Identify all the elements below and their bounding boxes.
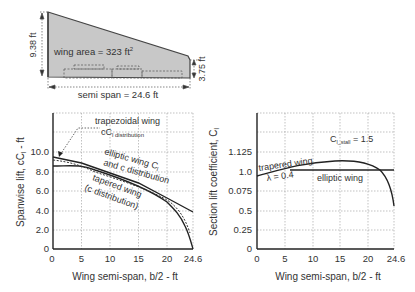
svg-text:1.0: 1.0 xyxy=(239,166,252,177)
y-axis-label: Section lift coefficient, Cl xyxy=(208,127,220,236)
svg-text:2.0: 2.0 xyxy=(36,224,49,235)
annotation-trapezoidal-2: cCl distribution xyxy=(101,127,144,138)
semi-span-label: semi span = 24.6 ft xyxy=(78,89,159,100)
annotation-elliptic-wing: elliptic wing xyxy=(317,173,363,183)
annotation-cl-stall: Cl_stall = 1.5 xyxy=(330,134,373,145)
svg-text:0: 0 xyxy=(49,253,54,264)
svg-text:0: 0 xyxy=(44,243,49,254)
svg-text:0.25: 0.25 xyxy=(234,224,253,235)
svg-text:24.6: 24.6 xyxy=(387,253,406,264)
svg-text:8.0: 8.0 xyxy=(36,166,49,177)
svg-text:5: 5 xyxy=(282,253,287,264)
svg-text:15: 15 xyxy=(335,253,346,264)
spanwise-lift-chart: 0 2.0 4.0 6.0 8.0 10.0 0 5 10 15 20 24.6… xyxy=(15,113,202,282)
x-tick-labels: 0 5 10 15 20 24.6 xyxy=(254,253,405,264)
y-axis-label: Spanwise lift, cCl - ft xyxy=(15,137,27,227)
wing-shape xyxy=(48,12,190,78)
annotation-trapezoidal-1: trapezoidal wing xyxy=(95,116,160,126)
y-tick-labels: 0 2.0 4.0 6.0 8.0 10.0 xyxy=(31,146,50,254)
svg-text:0: 0 xyxy=(247,243,252,254)
section-lift-coefficient-chart: 0 0.25 0.5 0.075 1.0 1.125 0 5 10 15 20 … xyxy=(208,113,405,282)
x-axis-label: Wing semi-span, b/2 - ft xyxy=(275,271,381,282)
svg-text:0.5: 0.5 xyxy=(239,205,252,216)
svg-text:0: 0 xyxy=(254,253,259,264)
tip-chord-label: 3.75 ft xyxy=(197,56,207,82)
x-tick-labels: 0 5 10 15 20 24.6 xyxy=(49,253,202,264)
y-tick-labels: 0 0.25 0.5 0.075 1.0 1.125 xyxy=(228,146,252,254)
svg-text:10: 10 xyxy=(308,253,319,264)
root-chord-dimension xyxy=(40,12,48,76)
svg-text:5: 5 xyxy=(79,253,84,264)
svg-text:4.0: 4.0 xyxy=(36,205,49,216)
x-axis-label: Wing semi-span, b/2 - ft xyxy=(72,271,178,282)
svg-text:20: 20 xyxy=(363,253,374,264)
svg-text:15: 15 xyxy=(133,253,144,264)
wing-planform: 9.38 ft 3.75 ft wing area = 323 ft2 semi… xyxy=(28,12,207,100)
svg-text:10.0: 10.0 xyxy=(31,146,50,157)
svg-text:1.125: 1.125 xyxy=(228,146,252,157)
wing-area-label: wing area = 323 ft2 xyxy=(53,46,134,57)
svg-text:10: 10 xyxy=(105,253,116,264)
svg-text:20: 20 xyxy=(162,253,173,264)
svg-text:24.6: 24.6 xyxy=(184,253,203,264)
figure: 9.38 ft 3.75 ft wing area = 323 ft2 semi… xyxy=(0,0,415,292)
root-chord-label: 9.38 ft xyxy=(28,32,38,58)
svg-text:0.075: 0.075 xyxy=(228,185,252,196)
svg-text:6.0: 6.0 xyxy=(36,185,49,196)
